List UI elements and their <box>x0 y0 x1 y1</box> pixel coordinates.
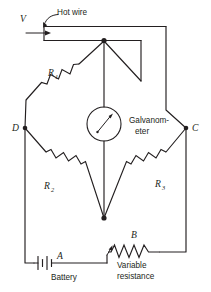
galvanometer-label-line2: eter <box>135 127 149 136</box>
rheostat-tap-arrow <box>109 245 113 250</box>
svg-text:R: R <box>43 180 50 191</box>
hot-wire-leader <box>43 15 58 28</box>
voltage-input-arrow <box>26 31 51 36</box>
node-top-junction <box>101 38 106 43</box>
bridge-arm-top-right <box>104 41 141 81</box>
bridge-arm-r3 <box>104 128 186 218</box>
voltage-label: V <box>20 13 27 24</box>
galvanometer-pivot <box>96 131 98 133</box>
variable-resistance-element <box>107 245 160 258</box>
galvanometer-label-line1: Galvanom- <box>129 116 169 125</box>
node-b-label: B <box>131 229 137 240</box>
right-outer-wire <box>166 27 186 129</box>
battery-label: Battery <box>51 273 78 282</box>
node-bottom-junction <box>101 215 106 220</box>
bridge-arm-r1 <box>25 41 104 128</box>
r2-label: R 2 <box>43 180 55 193</box>
svg-text:R: R <box>47 67 54 78</box>
svg-text:3: 3 <box>161 184 165 191</box>
hot-wire-element <box>44 27 166 82</box>
svg-text:2: 2 <box>51 186 55 193</box>
variable-resistance-label-line2: resistance <box>117 272 155 281</box>
galvanometer-branch <box>87 41 121 218</box>
bridge-arm-r2 <box>25 128 104 218</box>
left-outer-wire <box>25 128 34 263</box>
variable-resistance-label-line1: Variable <box>117 261 147 270</box>
svg-text:1: 1 <box>55 73 58 80</box>
node-c-dot <box>184 126 189 131</box>
hot-wire-label: Hot wire <box>57 8 87 17</box>
r3-label: R 3 <box>154 178 165 191</box>
r1-label: R 1 <box>47 67 58 80</box>
node-c-label: C <box>192 122 199 133</box>
svg-text:R: R <box>154 178 161 189</box>
circuit-canvas: V Hot wire R 1 R 2 R 3 Galvanom- eter D … <box>0 0 211 292</box>
node-d-label: D <box>11 122 19 133</box>
node-d-dot <box>23 126 28 131</box>
node-a-label: A <box>56 250 63 261</box>
battery-symbol <box>34 257 107 270</box>
galvanometer-needle <box>98 116 112 133</box>
circuit-diagram: V Hot wire R 1 R 2 R 3 Galvanom- eter D … <box>0 0 211 292</box>
